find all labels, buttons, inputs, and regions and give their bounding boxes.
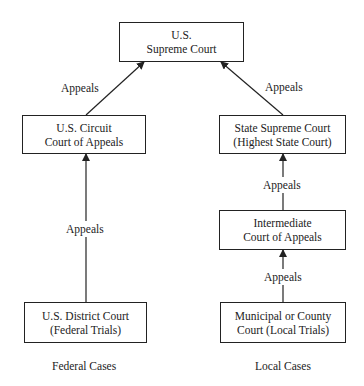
edge-label-appeals: Appeals: [263, 177, 301, 193]
node-us-circuit-court: U.S. Circuit Court of Appeals: [22, 115, 146, 154]
edge-label-appeals: Appeals: [61, 82, 99, 94]
node-us-supreme-court: U.S. Supreme Court: [119, 22, 244, 62]
edge-label-appeals: Appeals: [66, 221, 104, 237]
node-line: State Supreme Court: [235, 121, 331, 135]
node-line: Intermediate: [253, 216, 311, 230]
node-line: (Highest State Court): [233, 135, 331, 149]
column-label-federal: Federal Cases: [52, 360, 116, 372]
node-us-district-court: U.S. District Court (Federal Trials): [24, 302, 147, 343]
node-line: Court of Appeals: [243, 230, 322, 244]
node-line: (Federal Trials): [50, 323, 121, 337]
node-line: U.S. District Court: [42, 309, 129, 323]
node-line: U.S. Circuit: [56, 121, 111, 135]
edge-label-appeals: Appeals: [265, 81, 303, 93]
node-intermediate-court: Intermediate Court of Appeals: [219, 210, 346, 250]
node-line: U.S.: [171, 28, 191, 42]
column-label-local: Local Cases: [255, 360, 311, 372]
node-line: Court (Local Trials): [237, 323, 329, 337]
node-line: Municipal or County: [235, 309, 331, 323]
node-state-supreme-court: State Supreme Court (Highest State Court…: [219, 115, 346, 154]
node-line: Supreme Court: [147, 42, 217, 56]
node-line: Court of Appeals: [45, 135, 124, 149]
node-municipal-county-court: Municipal or County Court (Local Trials): [220, 302, 346, 343]
edge-label-appeals: Appeals: [264, 269, 302, 285]
